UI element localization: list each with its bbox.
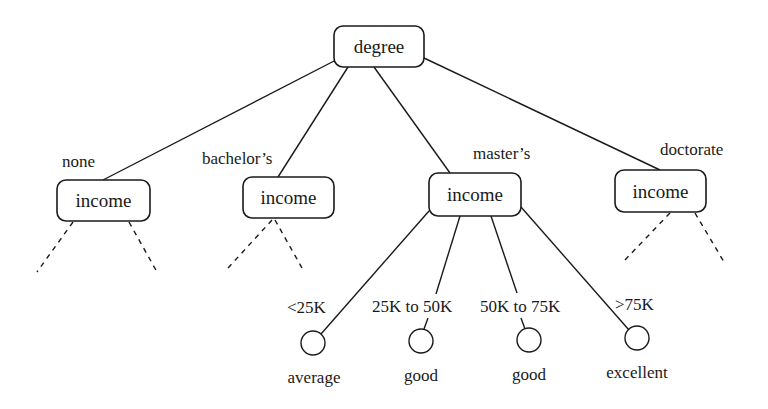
edge-label-none: none <box>62 152 95 171</box>
edge-income-to-leaf-2-seg0 <box>491 216 517 293</box>
income-node-masters: income <box>429 173 521 216</box>
leaf-label-good-1: good <box>404 366 439 385</box>
leaf-node-circle-0 <box>301 331 325 355</box>
edge-income-to-leaf-2-seg1 <box>521 318 525 329</box>
edge-label-bachelors: bachelor’s <box>202 149 273 168</box>
edge-degree-to-masters <box>374 67 450 173</box>
edge-degree-to-bachelors <box>278 67 348 177</box>
edge-label-income-leaf-0: <25K <box>287 298 327 317</box>
root-node-degree: degree <box>334 26 424 67</box>
leaf-node-circle-2 <box>517 328 541 352</box>
root-node-degree-label: degree <box>354 36 405 57</box>
dashed-edge-none-0 <box>37 222 73 272</box>
income-node-none: income <box>57 180 150 221</box>
dashed-edge-doctorate-1 <box>695 213 724 262</box>
dashed-edge-bachelors-0 <box>228 220 272 268</box>
edge-degree-to-doctorate <box>424 58 660 170</box>
income-node-doctorate: income <box>615 170 706 212</box>
income-node-bachelors: income <box>243 177 334 218</box>
leaf-node-circle-1 <box>409 329 433 353</box>
leaf-node-circle-3 <box>625 326 649 350</box>
leaf-label-average-0: average <box>288 368 341 387</box>
edge-label-doctorate: doctorate <box>660 140 723 159</box>
leaf-label-good-2: good <box>512 365 547 384</box>
edge-income-to-leaf-1-seg0 <box>436 216 460 294</box>
edge-label-income-leaf-1: 25K to 50K <box>372 297 453 316</box>
decision-tree-diagram: degreeincomeincomeincomeincome nonebache… <box>0 0 768 409</box>
dashed-edge-none-1 <box>129 222 157 272</box>
dashed-edge-doctorate-0 <box>623 213 670 262</box>
income-node-doctorate-label: income <box>633 181 689 202</box>
edge-label-masters: master’s <box>473 144 530 163</box>
income-node-masters-label: income <box>447 184 503 205</box>
edge-income-to-leaf-1-seg1 <box>424 318 428 329</box>
edge-label-income-leaf-2: 50K to 75K <box>480 297 561 316</box>
leaf-label-excellent-3: excellent <box>606 363 668 382</box>
dashed-edge-bachelors-1 <box>275 220 302 268</box>
edge-income-to-leaf-0-seg0 <box>321 211 429 334</box>
income-node-none-label: income <box>76 190 132 211</box>
income-node-bachelors-label: income <box>261 187 317 208</box>
edge-label-income-leaf-3: >75K <box>615 295 655 314</box>
